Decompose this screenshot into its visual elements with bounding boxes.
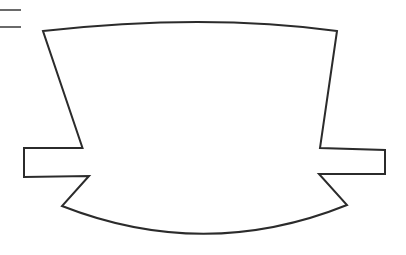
- drawing-canvas: [0, 0, 406, 255]
- banner-outline-illustration: [0, 0, 406, 255]
- banner-body-and-ribbons-path: [24, 22, 385, 234]
